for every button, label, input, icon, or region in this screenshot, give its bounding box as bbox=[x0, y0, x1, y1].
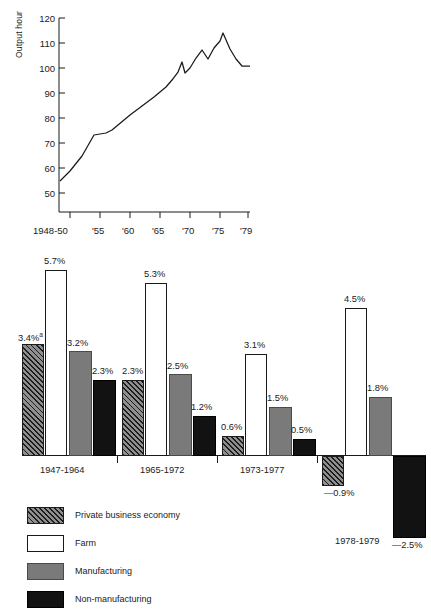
bar-private-business-economy bbox=[322, 456, 344, 486]
bar-chart: 3.4%a 5.7% 3.2% 2.3% 1947-1964 2.3% 5.3%… bbox=[0, 255, 431, 505]
bar-farm bbox=[145, 283, 167, 456]
x-tick-label: '65 bbox=[152, 226, 164, 236]
group-separator-tick bbox=[117, 456, 118, 463]
output-per-hour-line bbox=[60, 33, 250, 181]
bar-group-label: 1973-1977 bbox=[240, 466, 284, 475]
x-tick-label: '70 bbox=[182, 226, 194, 236]
bar-value-label: —0.9% bbox=[324, 489, 355, 498]
legend-label: Farm bbox=[75, 539, 96, 548]
line-chart: Output hour bbox=[0, 0, 431, 250]
bar-value-label: 3.1% bbox=[244, 341, 265, 350]
x-tick-label: '75 bbox=[212, 226, 224, 236]
bar-non-manufacturing bbox=[193, 416, 216, 456]
legend-swatch-white bbox=[27, 535, 64, 552]
y-tick-label: 80 bbox=[29, 114, 55, 124]
x-tick-label: '55 bbox=[92, 226, 104, 236]
legend-swatch-gray bbox=[27, 563, 64, 580]
bar-value-label: 5.3% bbox=[144, 270, 165, 279]
y-tick-label: 100 bbox=[29, 64, 55, 74]
bar-private-business-economy bbox=[222, 436, 244, 456]
legend-label: Non-manufacturing bbox=[75, 595, 152, 604]
legend: Private business economy Farm Manufactur… bbox=[0, 503, 431, 615]
bar-farm bbox=[45, 270, 67, 456]
y-tick-label: 110 bbox=[29, 39, 55, 49]
bar-farm bbox=[345, 308, 367, 456]
bar-value-label: 4.5% bbox=[344, 295, 365, 304]
bar-value-label: 1.8% bbox=[367, 384, 388, 393]
bar-group-label: 1965-1972 bbox=[140, 466, 184, 475]
bar-non-manufacturing bbox=[293, 439, 316, 456]
y-tick-label: 60 bbox=[29, 164, 55, 174]
bar-value-text: 3.4% bbox=[18, 333, 39, 343]
x-tick-label: '60 bbox=[122, 226, 134, 236]
bar-value-label: 2.3% bbox=[122, 367, 143, 376]
bar-manufacturing bbox=[369, 397, 392, 456]
bar-private-business-economy bbox=[122, 380, 144, 456]
y-tick-label: 70 bbox=[29, 139, 55, 149]
bar-group-label: 1947-1964 bbox=[40, 466, 84, 475]
bar-value-label: 0.6% bbox=[221, 423, 242, 432]
bar-value-label: 1.5% bbox=[267, 394, 288, 403]
bar-private-business-economy bbox=[22, 344, 44, 456]
group-separator-tick bbox=[217, 456, 218, 463]
bar-farm bbox=[245, 354, 267, 456]
bar-manufacturing bbox=[69, 351, 92, 456]
x-tick-label: 1948-50 bbox=[33, 226, 68, 236]
bar-value-label: 0.5% bbox=[291, 426, 312, 435]
bar-value-label: 3.2% bbox=[67, 339, 88, 348]
bar-manufacturing bbox=[169, 374, 192, 456]
bar-value-label: 5.7% bbox=[44, 257, 65, 266]
group-separator-tick bbox=[317, 456, 318, 463]
y-tick-label: 120 bbox=[29, 14, 55, 24]
bar-value-label: 2.5% bbox=[167, 362, 188, 371]
legend-swatch-black bbox=[27, 591, 64, 608]
figure-root: Output hour bbox=[0, 0, 431, 615]
legend-label: Manufacturing bbox=[75, 567, 132, 576]
bar-value-label: 3.4%a bbox=[18, 332, 43, 343]
x-tick-label: '79 bbox=[240, 226, 252, 236]
legend-label: Private business economy bbox=[75, 511, 180, 520]
line-chart-canvas bbox=[0, 0, 431, 250]
footnote-marker: a bbox=[39, 331, 43, 338]
bar-value-label: 1.2% bbox=[191, 403, 212, 412]
legend-swatch-hatch bbox=[27, 507, 64, 524]
bar-non-manufacturing bbox=[93, 380, 116, 456]
bar-value-label: 2.3% bbox=[92, 367, 113, 376]
y-axis-ticks bbox=[59, 18, 65, 193]
y-tick-label: 90 bbox=[29, 89, 55, 99]
bar-manufacturing bbox=[269, 407, 292, 456]
x-axis-ticks bbox=[70, 212, 248, 218]
y-tick-label: 50 bbox=[29, 189, 55, 199]
